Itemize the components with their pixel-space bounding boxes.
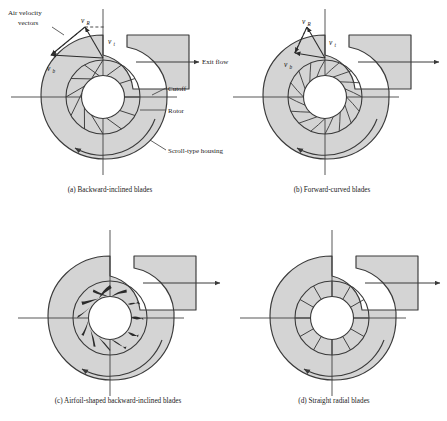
- centrifugal-fan-figure: v R v t v b Air velocity vectors Exit fl…: [0, 0, 447, 421]
- cutoff-label: Cutoff: [168, 85, 187, 93]
- panel-c-caption: (c) Airfoil-shaped backward-inclined bla…: [55, 397, 182, 405]
- vector-subscript-vb: b: [53, 68, 56, 74]
- exit-flow-label: Exit flow: [202, 58, 229, 66]
- panel-d-caption: (d) Straight radial blades: [298, 397, 369, 405]
- scroll-housing-label: Scroll-type housing: [168, 147, 224, 155]
- panel-b-caption: (b) Forward-curved blades: [294, 186, 371, 194]
- vector-subscript-vb: b: [290, 64, 293, 70]
- panel-a-caption: (a) Backward-inclined blades: [68, 186, 153, 194]
- panel-d-rotor: [295, 281, 369, 355]
- air-velocity-line1: Air velocity: [8, 9, 42, 17]
- air-velocity-line2: vectors: [18, 19, 38, 27]
- rotor-label: Rotor: [168, 107, 185, 115]
